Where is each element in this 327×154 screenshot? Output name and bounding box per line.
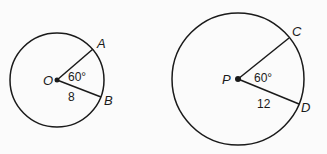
radius-label-ob: 8: [68, 90, 75, 104]
angle-label-aob: 60°: [68, 70, 86, 84]
circle-p-group: P 60° 12 C D: [172, 13, 310, 145]
label-c: C: [292, 24, 302, 39]
radius-label-pd: 12: [257, 97, 271, 111]
circle-o-group: O 60° 8 A B: [10, 33, 113, 127]
center-dot-p: [235, 76, 241, 82]
two-circles-diagram: O 60° 8 A B P 60° 12 C D: [0, 0, 327, 154]
center-dot-o: [55, 78, 60, 83]
angle-label-cpd: 60°: [254, 71, 272, 85]
label-d: D: [301, 100, 310, 115]
label-a: A: [96, 36, 106, 51]
label-p: P: [222, 72, 231, 87]
label-o: O: [43, 73, 53, 88]
label-b: B: [104, 93, 113, 108]
